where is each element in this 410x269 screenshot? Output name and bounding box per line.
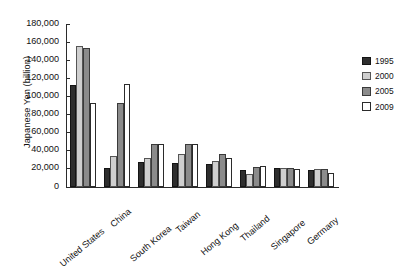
bar xyxy=(178,154,185,188)
legend-label: 2000 xyxy=(375,71,394,81)
legend-item[interactable]: 2000 xyxy=(362,71,394,81)
x-axis-label: South Korea xyxy=(128,224,173,264)
bar xyxy=(294,169,301,187)
bar xyxy=(138,162,145,187)
y-tick-label: 120,000 xyxy=(26,72,59,82)
bar xyxy=(212,161,219,187)
legend-swatch-icon xyxy=(362,57,371,66)
bar-group xyxy=(202,24,236,187)
y-tick-label: 80,000 xyxy=(31,108,59,118)
bar xyxy=(110,156,117,187)
x-axis-label: Taiwan xyxy=(174,209,202,235)
legend-item[interactable]: 1995 xyxy=(362,56,394,66)
plot-area: 180,000160,000140,000120,000100,00080,00… xyxy=(66,24,338,187)
x-axis-label: Singapore xyxy=(269,218,307,252)
bar-group xyxy=(134,24,168,187)
bar xyxy=(308,170,315,187)
bar xyxy=(219,154,226,188)
bar-group xyxy=(304,24,338,187)
legend-swatch-icon xyxy=(362,102,371,111)
bar xyxy=(151,144,158,187)
y-tick-label: 140,000 xyxy=(26,54,59,64)
x-axis-label: Germany xyxy=(305,215,340,247)
bar xyxy=(328,173,335,187)
y-tick-label: 60,000 xyxy=(31,126,59,136)
bar-groups xyxy=(66,24,338,187)
y-tick-label: 100,000 xyxy=(26,90,59,100)
bar xyxy=(90,103,97,187)
y-tick-label: 160,000 xyxy=(26,36,59,46)
x-axis-label: Thailand xyxy=(239,213,272,243)
bar-group xyxy=(66,24,100,187)
bar-group xyxy=(270,24,304,187)
chart-legend: 1995200020052009 xyxy=(362,56,394,112)
y-tick-label: 0 xyxy=(54,181,59,191)
bar xyxy=(287,168,294,187)
bar xyxy=(246,174,253,187)
bar xyxy=(321,169,328,187)
bar-group xyxy=(236,24,270,187)
bar xyxy=(253,167,260,187)
legend-label: 2009 xyxy=(375,102,394,112)
y-tick-label: 180,000 xyxy=(26,18,59,28)
x-axis-label: United States xyxy=(58,226,106,269)
legend-label: 2005 xyxy=(375,86,394,96)
bar xyxy=(83,48,90,187)
bar xyxy=(314,169,321,187)
x-axis-label: China xyxy=(108,206,133,229)
bar-group xyxy=(168,24,202,187)
legend-swatch-icon xyxy=(362,87,371,96)
bar xyxy=(124,84,131,187)
y-tick-label: 20,000 xyxy=(31,162,59,172)
bar xyxy=(70,85,77,187)
bar xyxy=(144,158,151,187)
bar xyxy=(206,164,213,187)
x-axis-category-labels: United StatesChinaSouth KoreaTaiwanHong … xyxy=(66,189,338,253)
bar xyxy=(260,166,267,187)
x-axis-label: Hong Kong xyxy=(199,220,240,257)
bar xyxy=(158,144,165,187)
bar xyxy=(104,168,111,187)
legend-item[interactable]: 2005 xyxy=(362,86,394,96)
bar xyxy=(280,168,287,187)
bar xyxy=(172,163,179,187)
y-tick-label: 40,000 xyxy=(31,144,59,154)
bar-group xyxy=(100,24,134,187)
x-axis-line xyxy=(66,187,339,188)
bar xyxy=(274,168,281,187)
bar xyxy=(226,158,233,187)
bar xyxy=(117,103,124,187)
bar xyxy=(185,144,192,187)
bar xyxy=(240,170,247,187)
legend-label: 1995 xyxy=(375,56,394,66)
legend-swatch-icon xyxy=(362,72,371,81)
bar xyxy=(76,46,83,187)
legend-item[interactable]: 2009 xyxy=(362,102,394,112)
bar xyxy=(192,144,199,187)
